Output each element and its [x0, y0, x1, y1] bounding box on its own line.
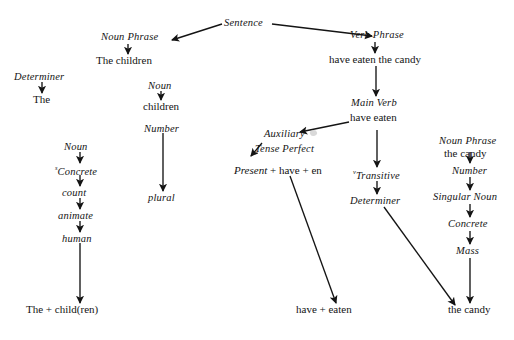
node-have-eaten: have eaten	[350, 112, 397, 124]
node-determiner-left: Determiner	[14, 71, 64, 82]
node-number-middle: Number	[144, 123, 179, 134]
edge-determiner-right-to-the-candy	[384, 207, 455, 305]
edge-main-verb-to-auxiliary	[300, 122, 349, 132]
node-noun-phrase-left: Noun Phrase	[101, 31, 158, 42]
node-count: count	[62, 187, 86, 198]
node-animate: animate	[58, 210, 93, 221]
transitive-label: Transitive	[356, 170, 400, 181]
node-noun-left-low: Noun	[64, 141, 88, 152]
edge-present-to-have-eaten-lex	[290, 176, 336, 303]
node-the-candy-bottom: the candy	[448, 304, 490, 316]
node-children: children	[143, 101, 179, 113]
node-main-verb: Main Verb	[351, 97, 397, 108]
node-the: The	[33, 94, 50, 106]
node-tense-perfect: Tense Perfect	[255, 143, 314, 154]
node-determiner-right: Determiner	[350, 195, 400, 206]
node-the-child-ren: The + child(ren)	[26, 304, 98, 316]
scan-artifact-smudge	[309, 129, 318, 137]
syntax-tree-diagram: Sentence Noun Phrase The children Verb P…	[0, 0, 514, 340]
present-label: Present	[234, 164, 267, 176]
node-sentence: Sentence	[224, 17, 263, 28]
node-transitive: vTransitive	[353, 168, 400, 181]
node-have-plus-eaten: have + eaten	[296, 304, 352, 316]
node-human: human	[62, 233, 92, 244]
node-present-have-en: Present + have + en	[234, 164, 322, 176]
node-noun-phrase-right: Noun Phrase	[439, 135, 496, 146]
present-suffix-label: + have + en	[270, 164, 322, 176]
node-verb-phrase: Verb Phrase	[350, 29, 404, 40]
node-singular-noun: Singular Noun	[433, 191, 497, 202]
concrete-left-label: Concrete	[58, 166, 98, 177]
node-concrete-right: Concrete	[448, 218, 488, 229]
node-auxiliary: Auxiliary	[264, 128, 305, 139]
node-the-candy-top: the candy	[444, 148, 486, 160]
node-have-eaten-the-candy: have eaten the candy	[329, 54, 421, 66]
node-plural: plural	[148, 192, 175, 203]
node-the-children: The children	[96, 55, 152, 67]
node-noun-middle: Noun	[148, 80, 172, 91]
node-concrete-left: sConcrete	[55, 164, 97, 177]
node-mass: Mass	[456, 245, 479, 256]
edge-sentence-to-noun-phrase	[172, 24, 222, 40]
node-number-right: Number	[452, 165, 487, 176]
